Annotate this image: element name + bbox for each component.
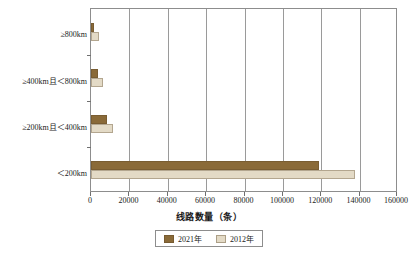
legend-swatch-2012 <box>216 235 226 243</box>
gridline-120000 <box>321 9 322 191</box>
legend-item-2021[interactable]: 2021年 <box>164 233 202 244</box>
gridline-140000 <box>360 9 361 191</box>
legend-swatch-2021 <box>164 235 174 243</box>
x-ticklabel-0: 0 <box>88 196 92 205</box>
legend-label-2021: 2021年 <box>178 233 202 244</box>
y-tick-2 <box>87 147 91 148</box>
y-axis-label-2: ≥200km且＜400km <box>22 121 87 132</box>
bar-2012-200-400km[interactable] <box>91 124 113 133</box>
x-ticklabel-100000: 100000 <box>270 196 294 205</box>
y-tick-0 <box>87 55 91 56</box>
bar-2012-lt200km[interactable] <box>91 170 355 179</box>
x-ticklabel-140000: 140000 <box>347 196 371 205</box>
plot-area <box>90 8 397 192</box>
chart-figure: ≥800km ≥400km且＜800km ≥200km且＜400km ＜200k… <box>0 0 418 262</box>
y-axis-label-1: ≥400km且＜800km <box>22 75 87 86</box>
x-ticklabel-80000: 80000 <box>234 196 254 205</box>
y-axis-labels: ≥800km ≥400km且＜800km ≥200km且＜400km ＜200k… <box>0 8 90 192</box>
y-tick-1 <box>87 101 91 102</box>
y-axis-label-3: ＜200km <box>57 167 87 178</box>
bar-2021-ge800km[interactable] <box>91 23 94 32</box>
bar-2021-200-400km[interactable] <box>91 115 107 124</box>
bar-2012-400-800km[interactable] <box>91 78 103 87</box>
legend-item-2012[interactable]: 2012年 <box>216 233 254 244</box>
bar-2021-lt200km[interactable] <box>91 161 319 170</box>
x-ticklabel-160000: 160000 <box>384 196 408 205</box>
y-axis-label-0: ≥800km <box>60 30 87 39</box>
bar-2012-ge800km[interactable] <box>91 32 99 41</box>
x-ticklabel-60000: 60000 <box>195 196 215 205</box>
x-ticklabel-40000: 40000 <box>157 196 177 205</box>
bar-2021-400-800km[interactable] <box>91 69 98 78</box>
chart-legend: 2021年 2012年 <box>155 230 263 247</box>
x-axis-title: 线路数量（条） <box>0 210 418 223</box>
legend-label-2012: 2012年 <box>230 233 254 244</box>
x-ticklabel-120000: 120000 <box>308 196 332 205</box>
x-ticklabel-20000: 20000 <box>118 196 138 205</box>
x-axis-tick-labels: 0 20000 40000 60000 80000 100000 120000 … <box>0 196 418 208</box>
